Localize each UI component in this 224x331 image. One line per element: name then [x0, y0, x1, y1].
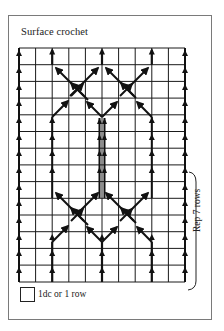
legend-square-symbol [20, 287, 35, 302]
crochet-chart [0, 0, 224, 331]
repeat-label: Rep 7 rows [192, 189, 202, 232]
legend-label: 1dc or 1 row [38, 289, 86, 299]
top-row-stitches [49, 48, 155, 65]
